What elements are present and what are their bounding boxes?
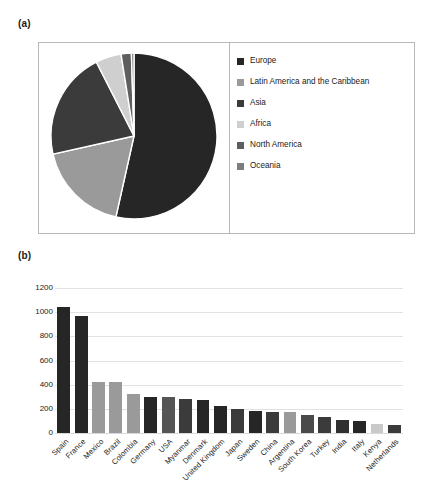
y-axis-tick-1000: 1000 xyxy=(19,307,53,316)
bar-usa xyxy=(162,397,175,433)
y-axis-tick-400: 400 xyxy=(19,380,53,389)
bar-slot-united-kingdom xyxy=(212,288,229,433)
bar-chart-plot-area: 020040060080010001200 xyxy=(55,288,403,433)
bar-chart-x-axis-line xyxy=(55,433,403,434)
y-axis-tick-800: 800 xyxy=(19,331,53,340)
bar-india xyxy=(336,420,349,433)
bar-sweden xyxy=(249,411,262,433)
bar-slot-colombia xyxy=(125,288,142,433)
bar-slot-south-korea xyxy=(299,288,316,433)
bar-mexico xyxy=(92,382,105,433)
pie-chart-legend: EuropeLatin America and the CaribbeanAsi… xyxy=(237,51,413,177)
bar-turkey xyxy=(318,417,331,433)
panel-a-label: (a) xyxy=(18,18,31,29)
bar-united-kingdom xyxy=(214,406,227,433)
bar-slot-india xyxy=(334,288,351,433)
bar-germany xyxy=(144,397,157,433)
bar-slot-denmark xyxy=(194,288,211,433)
panel-divider xyxy=(229,43,230,233)
legend-swatch-icon-north-america xyxy=(237,142,244,149)
bar-chart-x-axis-labels: SpainFranceMexicoBrazilColombiaGermanyUS… xyxy=(55,435,403,492)
legend-swatch-icon-asia xyxy=(237,100,244,107)
pie-chart-area xyxy=(39,43,229,233)
legend-item-latin-america-and-the-caribbean: Latin America and the Caribbean xyxy=(237,72,413,93)
y-axis-tick-1200: 1200 xyxy=(19,283,53,292)
legend-label-oceania: Oceania xyxy=(250,162,281,170)
legend-item-oceania: Oceania xyxy=(237,156,413,177)
y-axis-tick-600: 600 xyxy=(19,356,53,365)
bar-argentina xyxy=(284,412,297,433)
bar-japan xyxy=(231,409,244,433)
bar-china xyxy=(266,412,279,434)
legend-item-africa: Africa xyxy=(237,114,413,135)
bar-slot-argentina xyxy=(281,288,298,433)
bar-italy xyxy=(353,421,366,433)
legend-label-asia: Asia xyxy=(250,99,266,107)
legend-label-latin-america-and-the-caribbean: Latin America and the Caribbean xyxy=(250,78,369,86)
legend-label-europe: Europe xyxy=(250,57,276,65)
bar-slot-mexico xyxy=(90,288,107,433)
x-label-slot-france: France xyxy=(72,435,89,492)
bar-slot-france xyxy=(72,288,89,433)
y-axis-tick-200: 200 xyxy=(19,404,53,413)
x-axis-label-india: India xyxy=(330,437,348,455)
bar-slot-japan xyxy=(229,288,246,433)
bar-spain xyxy=(57,307,70,433)
bar-slot-kenya xyxy=(368,288,385,433)
legend-label-africa: Africa xyxy=(250,120,271,128)
bar-slot-italy xyxy=(351,288,368,433)
legend-item-europe: Europe xyxy=(237,51,413,72)
panel-b-label: (b) xyxy=(18,250,31,261)
legend-swatch-icon-europe xyxy=(237,58,244,65)
bar-chart-bars xyxy=(55,288,403,433)
pie-chart-panel: EuropeLatin America and the CaribbeanAsi… xyxy=(38,42,415,234)
legend-swatch-icon-africa xyxy=(237,121,244,128)
bar-colombia xyxy=(127,394,140,433)
legend-label-north-america: North America xyxy=(250,141,302,149)
figure-root: (a) EuropeLatin America and the Caribbea… xyxy=(0,0,423,492)
bar-slot-myanmar xyxy=(177,288,194,433)
bar-slot-sweden xyxy=(246,288,263,433)
bar-france xyxy=(75,316,88,433)
bar-slot-netherlands xyxy=(386,288,403,433)
bar-netherlands xyxy=(388,425,401,433)
bar-denmark xyxy=(197,400,210,433)
y-axis-tick-0: 0 xyxy=(19,428,53,437)
x-label-slot-sweden: Sweden xyxy=(246,435,263,492)
bar-slot-china xyxy=(264,288,281,433)
x-label-slot-mexico: Mexico xyxy=(90,435,107,492)
x-label-slot-turkey: Turkey xyxy=(316,435,333,492)
bar-kenya xyxy=(371,424,384,433)
x-label-slot-germany: Germany xyxy=(142,435,159,492)
x-label-slot-japan: Japan xyxy=(229,435,246,492)
x-label-slot-india: India xyxy=(334,435,351,492)
bar-slot-spain xyxy=(55,288,72,433)
legend-swatch-icon-oceania xyxy=(237,163,244,170)
bar-slot-brazil xyxy=(107,288,124,433)
x-label-slot-spain: Spain xyxy=(55,435,72,492)
legend-swatch-icon-latin-america-and-the-caribbean xyxy=(237,79,244,86)
x-label-slot-netherlands: Netherlands xyxy=(386,435,403,492)
pie-chart-svg xyxy=(49,51,219,225)
bar-slot-usa xyxy=(159,288,176,433)
legend-item-north-america: North America xyxy=(237,135,413,156)
legend-item-asia: Asia xyxy=(237,93,413,114)
x-label-slot-south-korea: South Korea xyxy=(299,435,316,492)
bar-brazil xyxy=(109,382,122,433)
x-label-slot-united-kingdom: United Kingdom xyxy=(212,435,229,492)
bar-chart-panel: Number of Signatories 020040060080010001… xyxy=(0,268,423,492)
bar-slot-turkey xyxy=(316,288,333,433)
bar-slot-germany xyxy=(142,288,159,433)
bar-south-korea xyxy=(301,415,314,433)
bar-myanmar xyxy=(179,399,192,433)
